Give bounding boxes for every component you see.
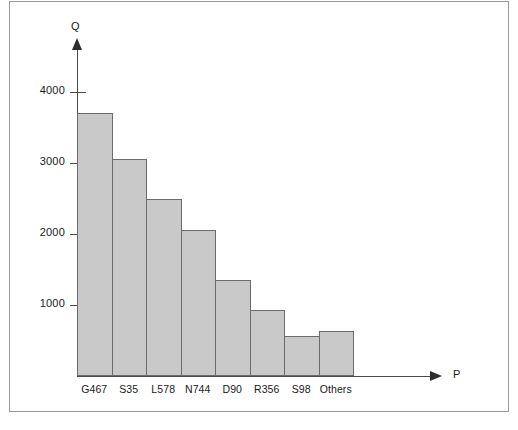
bar-others[interactable] xyxy=(319,331,355,376)
bars-layer: G467S35L578N744D90R356S98Others xyxy=(10,2,510,413)
x-axis-category-label: S98 xyxy=(284,383,319,395)
chart-plot-area: Q P 4000300020001000 G467S35L578N744D90R… xyxy=(10,2,510,413)
bar-g467[interactable] xyxy=(77,113,113,376)
x-axis-category-label: G467 xyxy=(77,383,112,395)
x-axis-category-label: D90 xyxy=(215,383,250,395)
x-axis-category-label: N744 xyxy=(181,383,216,395)
x-axis-category-label: R356 xyxy=(250,383,285,395)
x-axis-category-label: L578 xyxy=(146,383,181,395)
bar-n744[interactable] xyxy=(181,230,217,376)
x-axis-category-label: Others xyxy=(319,383,354,395)
x-axis-category-label: S35 xyxy=(112,383,147,395)
bar-d90[interactable] xyxy=(215,280,251,376)
bar-r356[interactable] xyxy=(250,310,286,376)
bar-s35[interactable] xyxy=(112,159,148,376)
bar-l578[interactable] xyxy=(146,199,182,377)
figure-frame: Q P 4000300020001000 G467S35L578N744D90R… xyxy=(9,1,509,412)
bar-s98[interactable] xyxy=(284,336,320,376)
